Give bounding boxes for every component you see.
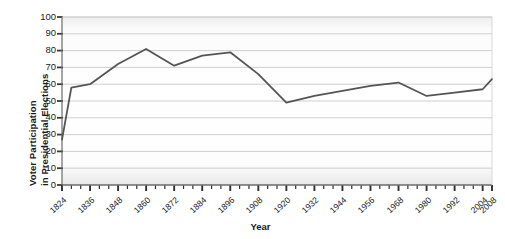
- voter-participation-line-chart: Voter Participation in Presidential Elec…: [0, 0, 505, 239]
- x-axis-title: Year: [0, 221, 505, 232]
- x-axis-title-text: Year: [250, 221, 270, 232]
- x-axis-ticks: [62, 185, 492, 191]
